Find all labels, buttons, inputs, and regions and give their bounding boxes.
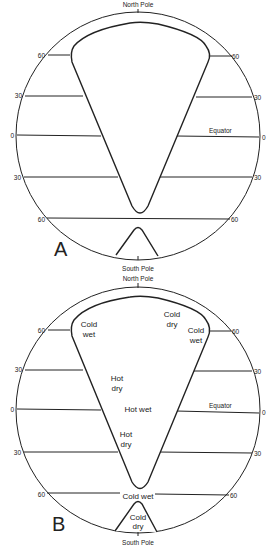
panel-label-a: A (54, 238, 68, 260)
north-pole-label: North Pole (123, 275, 154, 282)
lat-label-left-30s: 30 (14, 449, 22, 456)
svg-text:Hot wet: Hot wet (124, 405, 152, 414)
panel-b: North Pole South Pole 60 30 0 30 60 60 3… (10, 275, 266, 546)
climate-label-hot-dry-n: Hot dry (111, 374, 124, 393)
lat-label-left-30s: 30 (14, 174, 22, 181)
svg-text:Cold: Cold (188, 326, 204, 335)
lat-label-right-30s: 30 (254, 174, 262, 181)
lat-label-left-30n: 30 (15, 92, 23, 99)
continent-shape (71, 22, 209, 213)
lat-equator-left (17, 409, 101, 410)
lat-label-right-60s: 60 (230, 492, 238, 499)
svg-text:wet: wet (189, 336, 203, 345)
lat-label-right-30s: 30 (254, 450, 262, 457)
lat-label-right-60n: 60 (232, 328, 240, 335)
south-pole-label: South Pole (122, 539, 154, 546)
lat-label-left-60n: 60 (38, 52, 46, 59)
south-pole-label: South Pole (122, 265, 154, 272)
lat-label-left-0: 0 (10, 132, 14, 139)
svg-text:Hot: Hot (120, 430, 133, 439)
climate-label-cold-wet-ne: Cold wet (188, 326, 204, 345)
lat-label-right-30n: 30 (254, 94, 262, 101)
lat-30s-right (158, 452, 252, 453)
panel-a: North Pole South Pole 60 30 0 30 60 60 3… (10, 1, 266, 272)
lat-label-right-30n: 30 (254, 368, 262, 375)
panel-label-b: B (52, 513, 65, 535)
south-polar-continent (116, 228, 158, 257)
lat-label-left-60s: 60 (38, 216, 46, 223)
lat-label-right-60n: 60 (232, 53, 240, 60)
equator-label: Equator (209, 127, 233, 135)
climate-label-hot-wet: Hot wet (124, 405, 152, 414)
lat-label-right-0: 0 (262, 409, 266, 416)
lat-60s-right (155, 494, 229, 495)
north-pole-label: North Pole (123, 1, 154, 8)
climate-label-cold-wet-nw: Cold wet (81, 320, 97, 339)
svg-text:dry: dry (166, 320, 177, 329)
svg-text:Cold wet: Cold wet (122, 492, 154, 501)
lat-60s (47, 218, 230, 219)
svg-text:dry: dry (111, 384, 122, 393)
climate-label-hot-dry-s: Hot dry (120, 430, 133, 449)
svg-text:Hot: Hot (111, 374, 124, 383)
equator-label: Equator (209, 402, 233, 410)
lat-label-left-30n: 30 (15, 366, 23, 373)
svg-text:wet: wet (82, 330, 96, 339)
climate-zone-diagram: North Pole South Pole 60 30 0 30 60 60 3… (0, 0, 276, 554)
climate-label-cold-wet-s: Cold wet (122, 492, 154, 501)
lat-equator-right (176, 411, 259, 413)
lat-label-left-60n: 60 (38, 327, 46, 334)
lat-equator-left (17, 135, 101, 136)
lat-label-left-60s: 60 (38, 491, 46, 498)
lat-label-right-0: 0 (262, 134, 266, 141)
svg-text:Cold: Cold (130, 513, 146, 522)
lat-equator-right (176, 136, 259, 137)
svg-text:dry: dry (132, 522, 143, 531)
svg-text:dry: dry (120, 440, 131, 449)
lat-label-left-0: 0 (10, 406, 14, 413)
svg-text:Cold: Cold (81, 320, 97, 329)
svg-text:Cold: Cold (164, 310, 180, 319)
lat-label-right-60s: 60 (231, 216, 239, 223)
